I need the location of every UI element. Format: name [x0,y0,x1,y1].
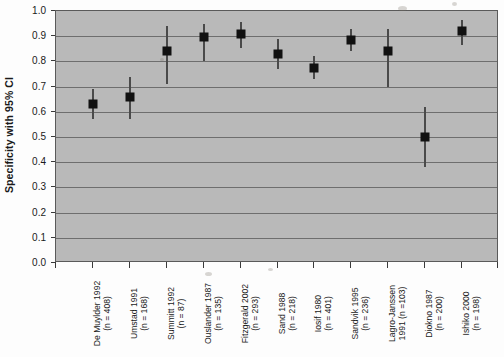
y-axis-tick-label: 0.7 [32,80,46,91]
x-axis-tick-label: Diokno 1987(n = 200) [424,270,444,357]
x-axis-label-slot: Summitt 1992(n = 87) [149,270,183,357]
x-axis-label-slot: Lagro-Janssen1991 (n =103) [370,270,404,357]
x-axis-tick-mark [203,262,204,268]
x-axis-tick-label: Ouslander 1987(n = 135) [203,270,223,357]
x-axis-tick-labels: De Muylder 1992(n = 408)Umstad 1991(n = … [55,270,498,357]
x-axis-tick-mark [313,262,314,268]
y-axis-tick-label: 0.2 [32,206,46,217]
y-axis-tick-labels: 0.00.10.20.30.40.50.60.70.80.91.0 [18,0,50,270]
x-axis-label-slot: De Muylder 1992(n = 408) [75,270,109,357]
x-axis-tick-label: Fitzgerald 2002(n = 293) [240,270,260,357]
x-axis-tick-label: Sandvik 1995(n = 236) [350,270,370,357]
x-axis-tick-label: Umstad 1991(n = 168) [129,270,149,357]
x-axis-tick-marks [55,262,498,268]
x-axis-tick-mark [55,262,56,268]
y-axis-tick-label: 0.4 [32,156,46,167]
y-axis-tick-label: 0.5 [32,131,46,142]
y-axis-tick-label: 0.0 [32,257,46,268]
scan-artifact [452,2,457,6]
x-axis-tick-mark [166,262,167,268]
x-axis-label-slot: Sand 1988(n = 218) [260,270,294,357]
x-axis-tick-mark [461,262,462,268]
x-axis-tick-mark [129,262,130,268]
y-axis-tick-label: 0.8 [32,55,46,66]
x-axis-label-slot: Iosif 1980(n = 401) [296,270,330,357]
x-axis-tick-mark [240,262,241,268]
y-axis-title-label: Specificity with 95% CI [3,77,15,193]
x-axis-label-slot: Umstad 1991(n = 168) [112,270,146,357]
y-axis-title: Specificity with 95% CI [0,0,18,270]
y-axis-tick-label: 1.0 [32,5,46,16]
x-axis-tick-label: Iosif 1980(n = 401) [313,270,333,357]
data-point-group [56,11,497,261]
x-axis-tick-label: Ishiko 2000(n = 198) [461,270,481,357]
x-axis-label-slot: Ouslander 1987(n = 135) [186,270,220,357]
x-axis-label-slot: Fitzgerald 2002(n = 293) [223,270,257,357]
y-axis-tick-label: 0.9 [32,30,46,41]
x-axis-tick-mark [92,262,93,268]
x-axis-label-slot: Diokno 1987(n = 200) [407,270,441,357]
y-axis-tick-label: 0.3 [32,181,46,192]
data-point-marker [458,27,467,36]
x-axis-tick-label: De Muylder 1992(n = 408) [92,270,112,357]
x-axis-label-slot: Ishiko 2000(n = 198) [444,270,478,357]
x-axis-tick-mark [424,262,425,268]
y-axis-tick-label: 0.6 [32,105,46,116]
x-axis-tick-label: Sand 1988(n = 218) [277,270,297,357]
x-axis-tick-label: Summitt 1992(n = 87) [166,270,186,357]
x-axis-tick-mark [387,262,388,268]
x-axis-tick-mark [350,262,351,268]
x-axis-tick-mark [497,262,498,268]
x-axis-tick-mark [277,262,278,268]
x-axis-label-slot: Sandvik 1995(n = 236) [333,270,367,357]
plot-area [55,10,498,262]
x-axis-tick-label: Lagro-Janssen1991 (n =103) [387,270,407,357]
y-axis-tick-label: 0.1 [32,231,46,242]
specificity-forest-chart: Specificity with 95% CI 0.00.10.20.30.40… [0,0,504,357]
